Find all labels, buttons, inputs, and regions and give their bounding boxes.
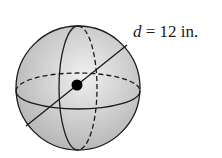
equals-sign: = [142, 22, 160, 41]
diameter-variable: d [133, 22, 142, 41]
diameter-label: d = 12 in. [133, 22, 198, 42]
diameter-value: 12 in. [160, 22, 199, 41]
center-point [72, 80, 83, 91]
